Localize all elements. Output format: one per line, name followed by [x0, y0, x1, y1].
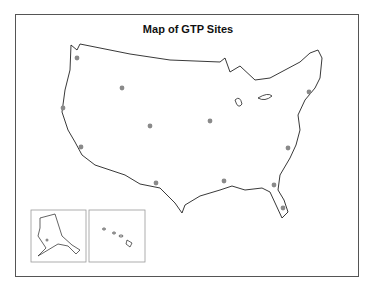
contiguous-us-outline	[62, 44, 322, 218]
site-dot	[79, 145, 84, 150]
site-dot	[272, 183, 277, 188]
great-lakes	[235, 94, 272, 106]
site-dot	[154, 181, 159, 186]
site-dot	[281, 206, 286, 211]
hawaii-inset	[89, 210, 145, 262]
site-dot	[61, 106, 66, 111]
site-markers	[61, 56, 312, 211]
site-dot	[75, 56, 80, 61]
site-dot	[307, 90, 312, 95]
site-dot	[286, 146, 291, 151]
site-dot	[148, 124, 153, 129]
us-map	[0, 0, 376, 296]
site-dot	[222, 179, 227, 184]
site-dot	[120, 86, 125, 91]
site-dot	[208, 119, 213, 124]
site-dot	[46, 239, 49, 242]
alaska-inset	[31, 210, 86, 262]
